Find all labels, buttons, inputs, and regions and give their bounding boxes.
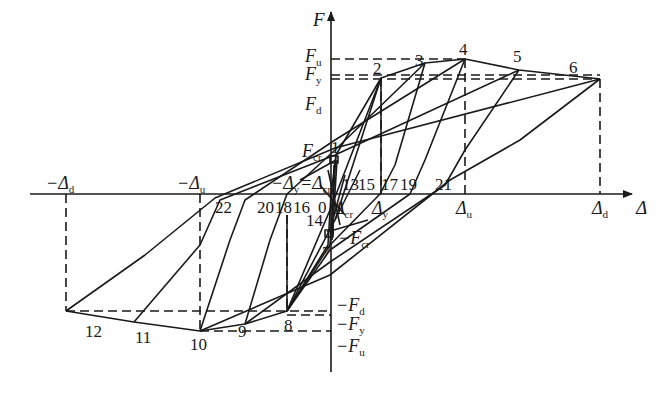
point-label-1: 1 [331,138,340,157]
hysteresis-diagram: F Δ Fu Fy Fd Fcr −Fcr −Fd −Fy −Fu −Δd −Δ… [0,0,659,394]
label-dy: Δy [371,198,389,220]
point-label-17: 17 [381,175,399,194]
point-label-16: 16 [293,198,310,217]
point-label-21: 21 [435,175,452,194]
label-fcr: Fcr [301,141,322,163]
label-du: Δu [455,198,473,220]
label-neg-dcr: =Δcr [300,173,332,195]
point-label-8: 8 [284,316,293,335]
point-label-4: 4 [459,40,468,59]
point-label-22: 22 [215,198,232,217]
reload-11 [134,70,519,322]
point-label-12: 12 [85,322,102,341]
label-neg-du: −Δu [177,173,206,195]
label-dd: Δd [591,198,609,220]
point-label-7: 7 [322,243,331,262]
point-label-11: 11 [135,328,151,347]
label-neg-fy: −Fy [336,314,365,336]
point-label-3: 3 [415,51,424,70]
point-label-10: 10 [190,335,207,354]
label-fd: Fd [304,94,322,116]
point-label-18: 18 [275,198,292,217]
x-axis-label: Δ [635,197,647,218]
point-label-2: 2 [373,59,382,78]
point-label-5: 5 [513,47,522,66]
point-label-15: 15 [358,175,375,194]
point-label-19: 19 [400,175,417,194]
displacement-labels: −Δd −Δu −Δy =Δcr Δcr Δy Δu Δd [46,173,609,220]
label-neg-dy: −Δy [271,173,300,195]
point-label-13: 13 [342,175,359,194]
label-neg-fu: −Fu [336,336,365,358]
y-axis-label: F [312,9,325,30]
label-neg-fcr: −Fcr [338,228,370,250]
point-label-6: 6 [569,58,578,77]
label-neg-dd: −Δd [46,173,75,195]
point-label-20: 20 [257,198,274,217]
hysteresis-curves [66,59,600,331]
reload-10 [200,59,465,331]
point-label-9: 9 [238,322,247,341]
label-dcr: Δcr [333,198,353,220]
